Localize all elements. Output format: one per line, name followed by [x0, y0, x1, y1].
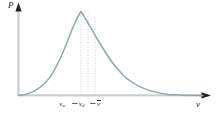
tick-label-v-bar: v — [97, 100, 100, 108]
tick-label-v-d-subscript: d — [82, 103, 85, 108]
speed-distribution-figure: P v vw vd v — [0, 0, 220, 123]
tick-label-v-bar-base: v — [97, 100, 100, 108]
distribution-curve — [19, 12, 204, 96]
y-axis-arrowhead — [15, 3, 21, 12]
tick-label-v-w-subscript: w — [62, 103, 65, 108]
plot-canvas — [0, 0, 220, 123]
y-axis-label: P — [8, 1, 14, 10]
tick-label-v-d: vd — [79, 101, 85, 108]
x-axis-label: v — [196, 100, 200, 109]
tick-label-v-w: vw — [59, 101, 65, 108]
